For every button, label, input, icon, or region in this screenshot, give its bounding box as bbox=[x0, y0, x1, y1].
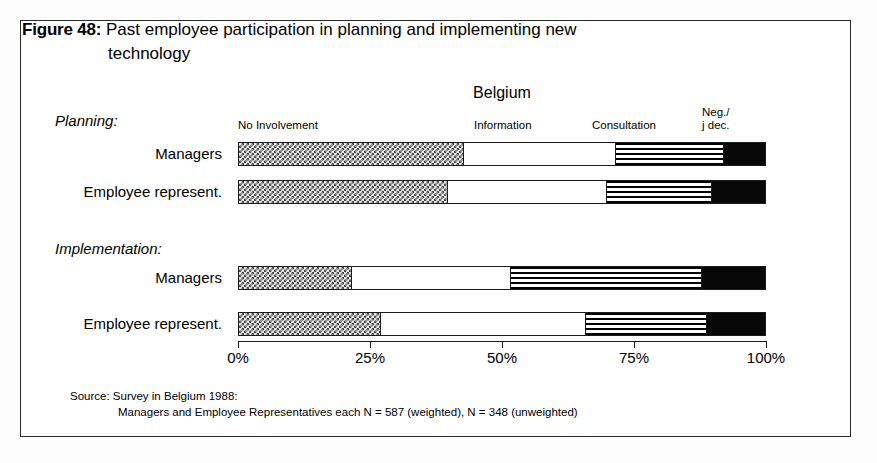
bar-segment-negotiation bbox=[712, 181, 765, 203]
bar-segment-no-involvement bbox=[239, 181, 448, 203]
x-axis-tick bbox=[502, 341, 503, 348]
chart-row: Employee represent. bbox=[0, 178, 831, 206]
figure-title-line-1: Figure 48: Past employee participation i… bbox=[22, 18, 662, 42]
bar-segment-consultation bbox=[586, 313, 707, 335]
bar-segment-information bbox=[448, 181, 607, 203]
x-axis-tick-label: 0% bbox=[227, 349, 249, 366]
legend-label-consultation: Consultation bbox=[592, 119, 656, 132]
x-axis-tick bbox=[634, 341, 635, 348]
figure-title-block: Figure 48: Past employee participation i… bbox=[22, 18, 662, 66]
bar-segment-negotiation bbox=[702, 267, 765, 289]
bar-segment-consultation bbox=[607, 181, 712, 203]
row-label: Employee represent. bbox=[0, 310, 222, 338]
figure-title-text-1: Past employee participation in planning … bbox=[106, 20, 577, 39]
bar-segment-information bbox=[381, 313, 586, 335]
stacked-bar bbox=[238, 266, 766, 290]
legend-label-negotiation: Neg./ j dec. bbox=[702, 106, 730, 131]
row-label: Managers bbox=[0, 264, 222, 292]
bar-segment-no-involvement bbox=[239, 313, 381, 335]
bar-segment-consultation bbox=[616, 143, 724, 165]
figure-number-label: Figure 48: bbox=[22, 20, 101, 39]
source-note-line-2: Managers and Employee Representatives ea… bbox=[70, 404, 578, 420]
bar-segment-information bbox=[464, 143, 616, 165]
stacked-bar bbox=[238, 142, 766, 166]
bar-segment-no-involvement bbox=[239, 267, 352, 289]
group-label-planning: Planning: bbox=[55, 112, 118, 129]
x-axis-tick-label: 50% bbox=[487, 349, 517, 366]
stacked-bar bbox=[238, 180, 766, 204]
bar-segment-negotiation bbox=[724, 143, 765, 165]
x-axis-tick-label: 75% bbox=[619, 349, 649, 366]
figure-frame bbox=[20, 20, 851, 437]
x-axis-tick-label: 100% bbox=[747, 349, 785, 366]
bar-segment-negotiation bbox=[707, 313, 765, 335]
bar-segment-no-involvement bbox=[239, 143, 464, 165]
x-axis-tick-label: 25% bbox=[355, 349, 385, 366]
chart-row: Employee represent. bbox=[0, 310, 831, 338]
bar-segment-information bbox=[352, 267, 512, 289]
legend-label-no-involvement: No Involvement bbox=[238, 119, 318, 132]
x-axis-tick bbox=[766, 341, 767, 348]
figure-page: Figure 48: Past employee participation i… bbox=[0, 0, 877, 463]
group-label-implementation: Implementation: bbox=[55, 240, 162, 257]
row-label: Employee represent. bbox=[0, 178, 222, 206]
chart-row: Managers bbox=[0, 140, 831, 168]
legend-label-negotiation-line-2: j dec. bbox=[702, 119, 730, 132]
legend-label-information: Information bbox=[474, 119, 532, 132]
stacked-bar bbox=[238, 312, 766, 336]
bar-segment-consultation bbox=[511, 267, 701, 289]
x-axis-tick bbox=[370, 341, 371, 348]
legend-label-negotiation-line-1: Neg./ bbox=[702, 106, 730, 119]
source-note-line-1: Source: Survey in Belgium 1988: bbox=[70, 388, 578, 404]
chart-row: Managers bbox=[0, 264, 831, 292]
source-note: Source: Survey in Belgium 1988: Managers… bbox=[70, 388, 578, 420]
chart-subtitle-country: Belgium bbox=[238, 84, 766, 102]
row-label: Managers bbox=[0, 140, 222, 168]
figure-title-text-2: technology bbox=[22, 42, 662, 66]
x-axis-tick bbox=[238, 341, 239, 348]
